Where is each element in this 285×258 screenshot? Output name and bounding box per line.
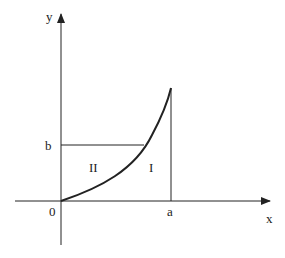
origin-label: 0 xyxy=(49,204,56,219)
region-2-label: II xyxy=(89,160,98,175)
diagram-canvas: y x 0 a b II I xyxy=(0,0,285,258)
a-mark-label: a xyxy=(167,204,173,219)
b-mark-label: b xyxy=(45,138,52,153)
y-axis-label: y xyxy=(46,9,53,24)
x-axis-label: x xyxy=(266,211,273,226)
region-1-label: I xyxy=(149,160,153,175)
